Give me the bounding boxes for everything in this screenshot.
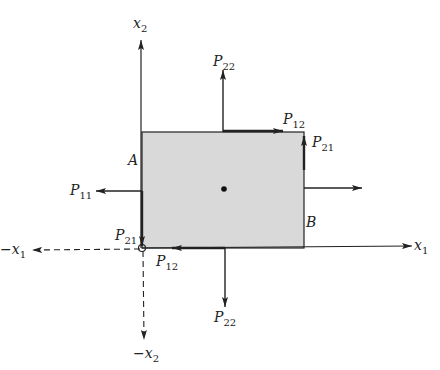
x2-axis-negative xyxy=(143,251,144,340)
x1-negative-label: −x1 xyxy=(0,241,26,260)
corner-label-a: A xyxy=(126,152,138,168)
center-point xyxy=(221,186,227,192)
x1-axis-negative xyxy=(32,249,140,250)
x1-positive-label: x1 xyxy=(414,237,428,256)
diagram-canvas: x2 x1 −x1 −x2 A B P22 P22 P11 P12 P21 P2… xyxy=(0,0,440,370)
left-shear-force-label: P21 xyxy=(114,227,137,246)
x2-positive-label: x2 xyxy=(133,15,147,34)
left-normal-force-label: P11 xyxy=(69,182,92,201)
x2-negative-label: −x2 xyxy=(133,345,159,364)
bottom-normal-force-label: P22 xyxy=(213,309,236,328)
top-normal-force-label: P22 xyxy=(212,53,235,72)
corner-label-b: B xyxy=(305,214,316,230)
stress-element-diagram: x2 x1 −x1 −x2 A B P22 P22 P11 P12 P21 P2… xyxy=(0,0,440,370)
bottom-shear-force-label: P12 xyxy=(155,253,178,272)
top-shear-force-label: P12 xyxy=(282,111,305,130)
right-shear-force-label: P21 xyxy=(311,134,334,153)
